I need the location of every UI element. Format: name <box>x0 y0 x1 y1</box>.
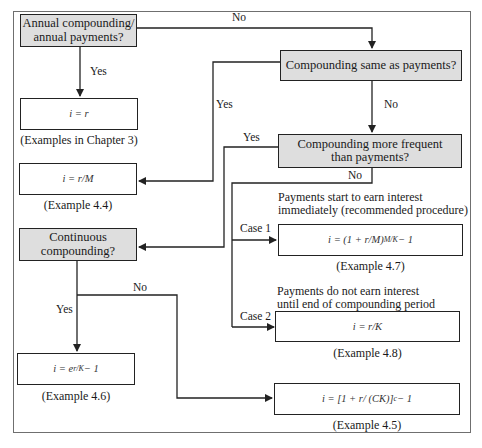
caption-i-eq-r-over-m: (Example 4.4) <box>19 198 137 213</box>
edge-label-same-no: No <box>384 98 398 110</box>
formula-case1-base: i = (1 + r/M) <box>328 233 384 247</box>
formula-i-eq-r-over-m-text: i = r/M <box>62 172 93 186</box>
decision-same-text: Compounding same as payments? <box>286 59 456 73</box>
decision-compounding-same: Compounding same as payments? <box>280 50 462 81</box>
edge-label-continuous-yes: Yes <box>56 303 73 315</box>
caption-case2: (Example 4.8) <box>275 346 460 361</box>
edge-label-more-freq-no: No <box>348 169 362 181</box>
formula-continuous-yes-base: i = e <box>53 362 73 376</box>
caption-continuous-no: (Example 4.5) <box>274 418 460 433</box>
caption-continuous-yes: (Example 4.6) <box>17 389 135 404</box>
formula-case2-text: i = r/K <box>353 320 382 334</box>
caption-i-eq-r: (Examples in Chapter 3) <box>20 133 138 148</box>
formula-case1-sup: M/K <box>384 233 398 247</box>
note-case2: Payments do not earn interest until end … <box>277 285 435 311</box>
decision-continuous-line2: compounding? <box>41 245 115 259</box>
edge-label-annual-no: No <box>232 11 246 23</box>
note-case1-line2: immediately (recommended procedure) <box>278 204 468 217</box>
formula-continuous-no: i = [1 + r/ (CK)]c − 1 <box>274 383 460 415</box>
decision-annual-compounding: Annual compounding/ annual payments? <box>20 14 137 47</box>
formula-case2: i = r/K <box>275 311 460 342</box>
edge-label-more-freq-yes: Yes <box>243 131 260 143</box>
edge-label-continuous-no: No <box>133 281 147 293</box>
note-case2-line2: until end of compounding period <box>277 298 435 311</box>
decision-continuous-compounding: Continuous compounding? <box>19 228 137 261</box>
formula-i-eq-r: i = r <box>20 98 138 130</box>
formula-continuous-yes-sup: r/K <box>73 362 84 376</box>
caption-case1: (Example 4.7) <box>278 259 463 274</box>
formula-i-eq-r-over-m: i = r/M <box>19 163 137 195</box>
formula-i-eq-r-text: i = r <box>69 107 88 121</box>
formula-continuous-no-tail: − 1 <box>397 392 412 406</box>
decision-annual-line1: Annual compounding/ <box>22 17 134 31</box>
formula-case1-tail: − 1 <box>398 233 413 247</box>
edge-label-case1: Case 1 <box>240 222 271 234</box>
formula-case1: i = (1 + r/M)M/K − 1 <box>278 224 463 256</box>
formula-continuous-yes: i = er/K − 1 <box>17 353 135 385</box>
decision-more-freq-line2: than payments? <box>331 151 409 165</box>
edge-label-case2: Case 2 <box>240 310 271 322</box>
decision-continuous-line1: Continuous <box>49 231 107 245</box>
formula-continuous-yes-tail: − 1 <box>84 362 99 376</box>
edge-label-same-yes: Yes <box>216 98 233 110</box>
decision-annual-line2: annual payments? <box>34 31 124 45</box>
decision-more-freq-line1: Compounding more frequent <box>297 138 442 152</box>
note-case1: Payments start to earn interest immediat… <box>278 191 468 217</box>
edge-label-annual-yes: Yes <box>90 65 107 77</box>
decision-compounding-more-frequent: Compounding more frequent than payments? <box>278 134 462 168</box>
formula-continuous-no-base: i = [1 + r/ (CK)] <box>322 392 394 406</box>
